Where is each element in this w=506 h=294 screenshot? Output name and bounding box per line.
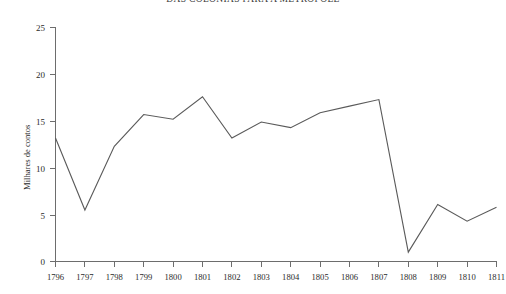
x-tick-label-1798: 1798	[106, 272, 123, 282]
y-tick-label-20: 20	[36, 70, 46, 80]
y-axis-ticks	[50, 28, 56, 262]
y-tick-label-15: 15	[36, 117, 46, 127]
x-tick-label-1799: 1799	[135, 272, 152, 282]
x-tick-label-1803: 1803	[253, 272, 270, 282]
x-axis-ticks	[56, 262, 497, 268]
line-chart-plot: 25 20 15 10 5 0 Milhares de contos	[0, 0, 506, 294]
x-tick-label-1809: 1809	[429, 272, 446, 282]
x-tick-label-1811: 1811	[488, 272, 505, 282]
y-tick-label-25: 25	[36, 23, 46, 33]
y-tick-label-0: 0	[41, 257, 46, 267]
chart-figure: DAS COLÔNIAS PARA A METRÓPOLE 25 20 15 1…	[0, 0, 506, 294]
x-tick-label-1796: 1796	[47, 272, 65, 282]
x-tick-label-1804: 1804	[282, 272, 300, 282]
x-tick-label-1807: 1807	[370, 272, 388, 282]
y-tick-label-10: 10	[36, 164, 46, 174]
x-tick-label-1805: 1805	[312, 272, 329, 282]
data-series-line	[56, 97, 497, 252]
x-tick-label-1800: 1800	[165, 272, 182, 282]
x-tick-label-1806: 1806	[341, 272, 359, 282]
x-axis-labels: 1796 1797 1798 1799 1800 1801 1802 1803 …	[47, 272, 505, 282]
y-axis-title: Milhares de contos	[22, 124, 32, 190]
x-tick-label-1802: 1802	[223, 272, 240, 282]
x-tick-label-1797: 1797	[76, 272, 94, 282]
x-tick-label-1810: 1810	[459, 272, 476, 282]
x-tick-label-1808: 1808	[400, 272, 417, 282]
y-tick-label-5: 5	[41, 211, 46, 221]
x-tick-label-1801: 1801	[194, 272, 211, 282]
